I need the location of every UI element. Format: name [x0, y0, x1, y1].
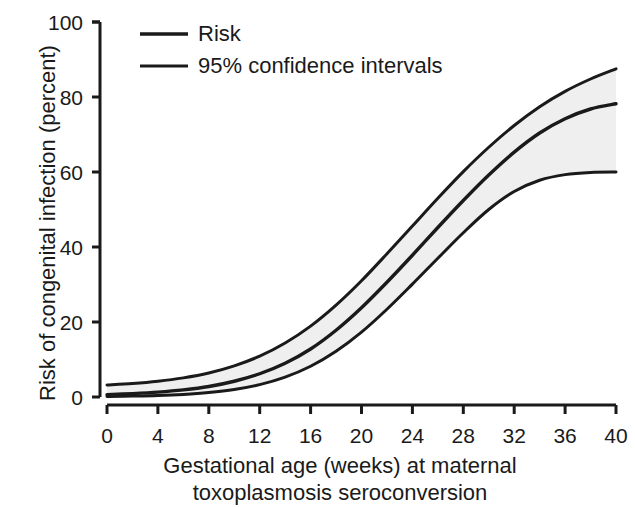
chart-figure: Risk 95% confidence intervals 0204060801…: [0, 0, 635, 507]
legend-label-confidence-intervals: 95% confidence intervals: [198, 55, 443, 77]
x-axis-tick-label: 12: [248, 425, 271, 446]
x-axis-tick-label: 4: [152, 425, 164, 446]
x-axis-tick-label: 0: [101, 425, 113, 446]
x-axis-tick-label: 16: [299, 425, 322, 446]
x-axis-tick-label: 36: [553, 425, 576, 446]
legend-swatches: [140, 34, 188, 66]
y-axis-title: Risk of congenital infection (percent): [35, 23, 61, 423]
x-axis-tick-label: 28: [452, 425, 475, 446]
x-axis-tick-label: 20: [350, 425, 373, 446]
x-axis-title: Gestational age (weeks) at maternal toxo…: [60, 452, 620, 506]
x-axis-tick-label: 32: [503, 425, 526, 446]
legend-label-risk: Risk: [198, 23, 241, 45]
axis-lines: [92, 22, 616, 414]
confidence-band: [107, 69, 616, 397]
x-axis-title-line-2: toxoplasmosis seroconversion: [60, 479, 620, 506]
x-axis-title-line-1: Gestational age (weeks) at maternal: [60, 452, 620, 479]
x-axis-tick-label: 8: [203, 425, 215, 446]
x-axis-tick-label: 24: [401, 425, 424, 446]
x-axis-tick-label: 40: [604, 425, 627, 446]
